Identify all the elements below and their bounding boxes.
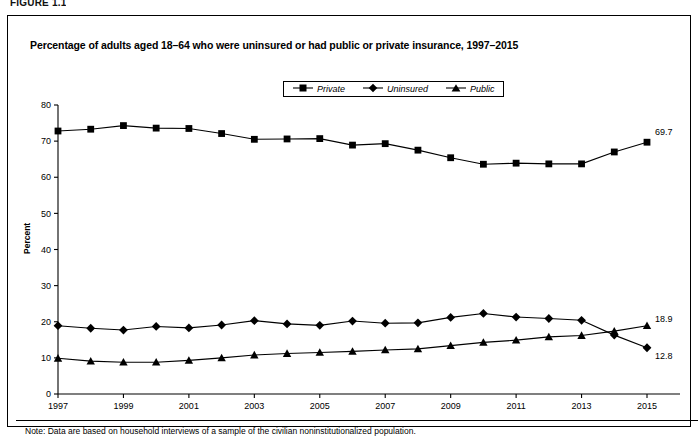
data-point-square: [611, 149, 618, 156]
data-point-diamond: [479, 309, 488, 318]
data-point-square: [545, 160, 552, 167]
x-tick-label: 2005: [310, 401, 330, 411]
x-tick-label: 2015: [637, 401, 657, 411]
x-tick-label: 1999: [113, 401, 133, 411]
y-tick-label: 70: [41, 136, 51, 146]
x-tick-label: 2011: [506, 401, 525, 411]
chart-plot-area: 0102030405060708019971999200120032005200…: [8, 16, 692, 428]
y-tick-label: 60: [41, 172, 51, 182]
data-point-diamond: [152, 322, 161, 331]
data-point-triangle: [643, 322, 651, 330]
data-point-diamond: [217, 321, 226, 330]
endpoint-label-private: 69.7: [655, 127, 673, 137]
data-point-square: [120, 122, 127, 129]
x-tick-label: 2013: [572, 401, 592, 411]
data-point-diamond: [643, 343, 652, 352]
x-tick-label: 2007: [375, 401, 395, 411]
data-point-diamond: [381, 319, 390, 328]
data-point-square: [55, 128, 62, 135]
data-point-diamond: [119, 326, 128, 335]
data-point-square: [447, 154, 454, 161]
data-point-diamond: [250, 316, 259, 325]
data-point-square: [644, 139, 651, 146]
data-point-square: [153, 125, 160, 132]
x-tick-label: 2003: [244, 401, 264, 411]
data-point-square: [415, 147, 422, 154]
data-point-square: [87, 126, 94, 133]
data-point-square: [284, 136, 291, 143]
data-point-diamond: [414, 318, 423, 327]
x-tick-label: 2009: [441, 401, 461, 411]
data-point-square: [513, 160, 520, 167]
endpoint-label-public: 18.9: [655, 314, 673, 324]
figure-label: FIGURE 1.1: [10, 0, 66, 11]
endpoint-label-uninsured: 12.8: [655, 351, 673, 361]
y-tick-label: 30: [41, 281, 51, 291]
series-line-public: [58, 326, 647, 362]
data-point-diamond: [315, 321, 324, 330]
y-tick-label: 0: [46, 389, 51, 399]
x-tick-label: 1997: [48, 401, 68, 411]
data-point-diamond: [446, 313, 455, 322]
data-point-diamond: [283, 320, 292, 329]
footer-divider: [16, 420, 698, 421]
data-point-square: [251, 136, 258, 143]
y-tick-label: 10: [41, 353, 51, 363]
y-tick-label: 80: [41, 100, 51, 110]
y-tick-label: 20: [41, 317, 51, 327]
data-point-square: [185, 125, 192, 132]
data-point-square: [316, 135, 323, 142]
data-point-diamond: [86, 324, 95, 333]
data-point-diamond: [54, 321, 63, 330]
y-tick-label: 50: [41, 209, 51, 219]
data-point-square: [218, 130, 225, 137]
data-point-diamond: [577, 316, 586, 325]
data-point-square: [578, 160, 585, 167]
data-point-diamond: [184, 323, 193, 332]
x-tick-label: 2001: [179, 401, 199, 411]
data-point-square: [349, 142, 356, 149]
data-point-square: [480, 161, 487, 168]
chart-note: Note: Data are based on household interv…: [25, 426, 416, 436]
data-point-diamond: [512, 313, 521, 322]
data-point-diamond: [348, 317, 357, 326]
y-tick-label: 40: [41, 245, 51, 255]
figure-panel: Percentage of adults aged 18–64 who were…: [7, 15, 691, 427]
data-point-diamond: [544, 314, 553, 323]
data-point-square: [382, 140, 389, 147]
